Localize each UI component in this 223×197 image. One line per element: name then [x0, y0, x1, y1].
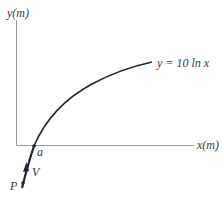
- x-axis-label: x(m): [196, 138, 219, 152]
- point-a-label: a: [37, 145, 43, 159]
- point-p: [21, 181, 25, 185]
- log-curve: [34, 62, 152, 146]
- velocity-label: V: [32, 165, 41, 179]
- point-a: [32, 144, 36, 148]
- y-axis-label: y(m): [6, 6, 29, 20]
- point-p-label: P: [9, 179, 18, 193]
- curve-equation-label: y = 10 ln x: [156, 56, 210, 70]
- diagram-canvas: y(m) x(m) y = 10 ln x a V P: [0, 0, 223, 197]
